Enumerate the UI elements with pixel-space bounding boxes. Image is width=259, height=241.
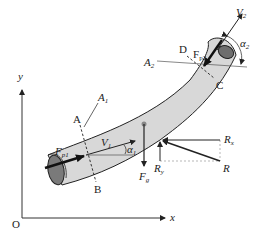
origin-label: O [12, 218, 20, 230]
reaction-force-arrow [163, 141, 220, 161]
reaction-forces: Rx Ry R [153, 133, 235, 176]
a1-leader-line [84, 103, 98, 127]
reaction-label: R [222, 162, 230, 174]
x-axis-label: x [169, 211, 175, 223]
gravity-force-label: Fg [138, 170, 150, 184]
area-a2-label: A2 [143, 56, 155, 70]
alpha2-label: α2 [240, 37, 250, 51]
outlet-velocity-label: V2 [236, 6, 247, 20]
point-c-label: C [216, 79, 223, 91]
point-b-label: B [94, 183, 101, 195]
curved-pipe-diagram: O x y A B A1 Fp1 V1 α1 Fg Rx Ry R D C [0, 0, 259, 241]
area-a1-label: A1 [97, 91, 108, 105]
inlet-pressure-force-label: Fp1 [54, 145, 69, 159]
reaction-x-label: Rx [223, 133, 235, 147]
y-axis-label: y [17, 70, 23, 82]
point-a-label: A [73, 113, 81, 125]
point-d-label: D [179, 43, 187, 55]
outlet-pressure-force-label: Fp2 [193, 48, 207, 62]
reaction-y-label: Ry [153, 162, 165, 176]
